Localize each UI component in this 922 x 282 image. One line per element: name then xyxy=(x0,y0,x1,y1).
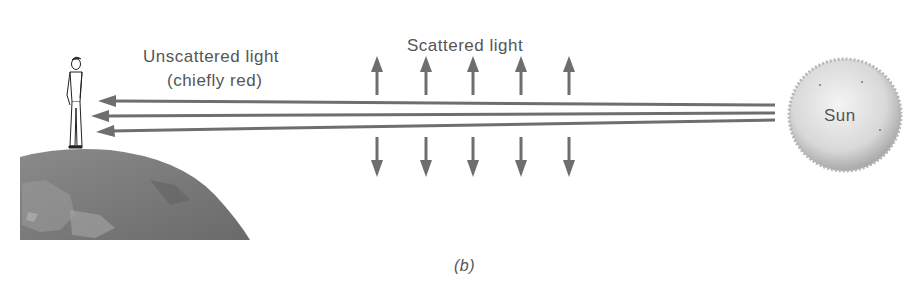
scattered-light-arrows xyxy=(371,56,575,177)
panel-label: (b) xyxy=(454,257,475,275)
scattered-light-label: Scattered light xyxy=(407,36,523,56)
observer-figure xyxy=(67,57,82,148)
unscattered-light-sublabel: (chiefly red) xyxy=(167,71,262,91)
earth-illustration xyxy=(20,149,250,240)
unscattered-light-label: Unscattered light xyxy=(143,47,279,67)
unscattered-light-arrows xyxy=(91,95,775,137)
sun-label: Sun xyxy=(824,106,856,126)
